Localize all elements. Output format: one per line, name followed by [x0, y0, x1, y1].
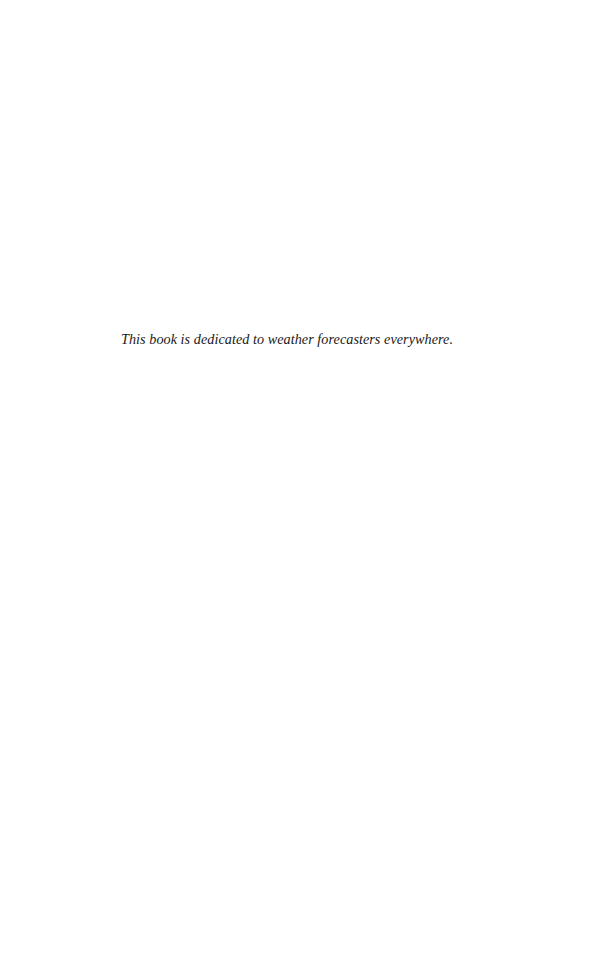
dedication-text: This book is dedicated to weather foreca…: [121, 330, 453, 348]
book-page: This book is dedicated to weather foreca…: [0, 0, 614, 961]
